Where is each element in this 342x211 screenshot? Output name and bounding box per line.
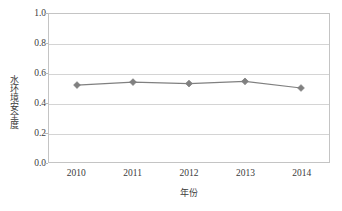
chart-container: 水环境安全度 0.00.20.40.60.81.0 20102011201220… — [0, 0, 342, 211]
data-point-marker[interactable] — [298, 85, 305, 92]
y-axis-tick-label: 0.2 — [20, 128, 46, 138]
y-axis-tick-label: 0.8 — [20, 38, 46, 48]
x-axis-tick-label: 2012 — [180, 168, 199, 178]
data-point-marker[interactable] — [130, 79, 137, 86]
y-axis-tick-mark — [44, 133, 48, 134]
x-axis-tick-label: 2010 — [67, 168, 86, 178]
y-axis-tick-label: 0.6 — [20, 68, 46, 78]
y-axis-tick-mark — [44, 163, 48, 164]
y-axis-tick-mark — [44, 73, 48, 74]
y-axis-tick-label-group: 0.00.20.40.60.81.0 — [16, 0, 46, 211]
x-axis-tick-label-group: 20102011201220132014 — [48, 168, 330, 182]
data-series-layer — [49, 14, 329, 162]
plot-area — [48, 13, 330, 163]
y-axis-tick-mark — [44, 103, 48, 104]
data-point-marker[interactable] — [242, 78, 249, 85]
x-axis-tick-label: 2014 — [292, 168, 311, 178]
y-axis-tick-mark — [44, 13, 48, 14]
x-axis-tick-label: 2011 — [123, 168, 142, 178]
y-axis-tick-label: 1.0 — [20, 8, 46, 18]
x-axis-title: 年份 — [48, 186, 330, 199]
y-axis-tick-label: 0.0 — [20, 158, 46, 168]
data-point-marker[interactable] — [74, 82, 81, 89]
data-point-marker[interactable] — [186, 80, 193, 87]
x-axis-tick-label: 2013 — [236, 168, 255, 178]
y-axis-tick-mark — [44, 43, 48, 44]
y-axis-tick-label: 0.4 — [20, 98, 46, 108]
